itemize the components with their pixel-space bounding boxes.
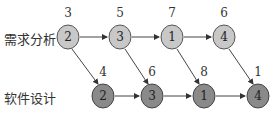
node-top-label: 5	[110, 6, 130, 20]
node-top-label: 7	[162, 6, 182, 20]
node-value: 3	[142, 89, 162, 103]
node-value: 2	[58, 30, 78, 44]
row-label-requirements: 需求分析	[4, 29, 56, 48]
node-top-label: 6	[142, 65, 162, 79]
node-value: 1	[194, 89, 214, 103]
node-top-label: 3	[58, 6, 78, 20]
node-top-label: 8	[194, 65, 214, 79]
node-value: 3	[110, 30, 130, 44]
node-top-label: 4	[93, 65, 113, 79]
node-value: 1	[162, 30, 182, 44]
row-label-design: 软件设计	[4, 88, 56, 107]
node-value: 4	[214, 30, 234, 44]
node-top-label: 6	[214, 6, 234, 20]
node-value: 2	[93, 89, 113, 103]
node-top-label: 1	[248, 65, 268, 79]
node-value: 4	[248, 89, 268, 103]
